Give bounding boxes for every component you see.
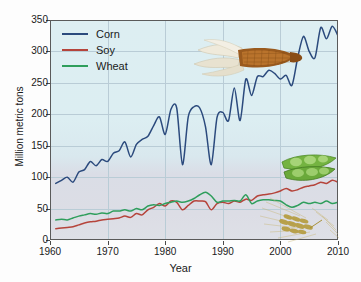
x-tick-mark (165, 241, 166, 245)
legend-label: Soy (96, 44, 115, 56)
legend-swatch-wheat (62, 65, 88, 67)
y-tick-label: 50 (18, 204, 48, 214)
x-tick-mark (50, 241, 51, 245)
legend-label: Corn (96, 28, 120, 40)
legend-swatch-soy (62, 49, 88, 51)
corn-cob-illustration (190, 28, 305, 86)
x-tick-label: 1980 (145, 246, 185, 257)
y-axis-title: Million metric tons (14, 52, 25, 202)
x-tick-label: 1970 (88, 246, 128, 257)
x-tick-label: 2010 (318, 246, 358, 257)
x-tick-label: 1990 (203, 246, 243, 257)
chart-figure: 050100150200250300350 196019701980199020… (0, 0, 361, 282)
x-tick-mark (108, 241, 109, 245)
x-axis-title: Year (0, 262, 361, 274)
y-tick-label: 0 (18, 235, 48, 245)
soybean-pod-illustration (278, 152, 340, 186)
x-tick-label: 2000 (260, 246, 300, 257)
chart-legend: CornSoyWheat (62, 26, 128, 74)
legend-item-corn[interactable]: Corn (62, 26, 128, 42)
legend-item-soy[interactable]: Soy (62, 42, 128, 58)
wheat-stalk-illustration (256, 196, 340, 244)
x-tick-mark (223, 241, 224, 245)
x-tick-label: 1960 (30, 246, 70, 257)
legend-label: Wheat (96, 60, 128, 72)
legend-swatch-corn (62, 33, 88, 35)
legend-item-wheat[interactable]: Wheat (62, 58, 128, 74)
y-tick-label: 350 (18, 15, 48, 25)
